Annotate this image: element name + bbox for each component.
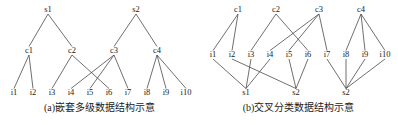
- node-i-4: i4: [68, 87, 75, 97]
- node-i-1: i1: [11, 87, 18, 97]
- node-c-1: c1: [234, 4, 242, 14]
- edge-c4-i8: [147, 55, 157, 89]
- edge-c2-i3: [52, 55, 72, 89]
- edge-i10-s3: [346, 59, 385, 89]
- edge-c1-i1: [14, 55, 29, 89]
- edge-c1-i2: [29, 55, 33, 89]
- edge-c3-i7: [114, 55, 128, 89]
- edge-i5-s2: [289, 59, 296, 89]
- node-s-1: s1: [242, 87, 250, 97]
- edge-s1-c1: [29, 14, 48, 47]
- node-i-6: i6: [106, 87, 113, 97]
- edge-s2-c3: [114, 14, 136, 47]
- node-i-5: i5: [87, 87, 94, 97]
- node-i-10: i10: [181, 87, 192, 97]
- edge-c4-i8: [346, 14, 361, 51]
- edge-c2-i3: [251, 14, 276, 51]
- node-c-2: c2: [68, 45, 76, 55]
- node-i-6: i6: [305, 49, 312, 59]
- node-c-4: c4: [357, 4, 366, 14]
- node-c-1: c1: [25, 45, 33, 55]
- node-i-2: i2: [229, 49, 236, 59]
- node-i-3: i3: [49, 87, 56, 97]
- edge-c1-i1: [213, 14, 238, 51]
- node-i-9: i9: [163, 87, 170, 97]
- node-i-5: i5: [286, 49, 293, 59]
- node-i-4: i4: [267, 49, 274, 59]
- edge-i9-s3: [346, 59, 365, 89]
- node-c-3: c3: [110, 45, 118, 55]
- edge-c1-i2: [232, 14, 238, 51]
- node-i-1: i1: [210, 49, 217, 59]
- node-i-7: i7: [324, 49, 331, 59]
- panel-a-nested-hierarchy: s1s2c1c2c3c4i1i2i3i4i5i6i7i8i9i10 (a)嵌套多…: [0, 0, 199, 125]
- node-i-2: i2: [30, 87, 37, 97]
- node-c-2: c2: [272, 4, 280, 14]
- edge-c3-i4: [270, 14, 319, 51]
- edge-s2-c4: [136, 14, 157, 47]
- node-i-7: i7: [125, 87, 132, 97]
- node-i-3: i3: [248, 49, 255, 59]
- edge-s1-c2: [48, 14, 72, 47]
- edge-i6-s2: [296, 59, 308, 89]
- node-s-2: s2: [292, 87, 300, 97]
- panel-b-cross-classification: c1c2c3c4i1i2i3i4i5i6i7i8i9i10s1s2s2 (b)交…: [199, 0, 398, 125]
- node-c-4: c4: [153, 45, 162, 55]
- edge-i4-s1: [246, 59, 270, 89]
- figure-container: s1s2c1c2c3c4i1i2i3i4i5i6i7i8i9i10 (a)嵌套多…: [0, 0, 398, 125]
- panel-a-caption: (a)嵌套多级数据结构示意: [0, 101, 199, 114]
- node-i-8: i8: [343, 49, 350, 59]
- edge-c3-i5: [289, 14, 319, 51]
- node-i-9: i9: [362, 49, 369, 59]
- node-s-1: s1: [44, 4, 52, 14]
- edge-i3-s1: [246, 59, 251, 89]
- node-s-2: s2: [132, 4, 140, 14]
- edge-c3-i7: [319, 14, 327, 51]
- panel-b-caption: (b)交叉分类数据结构示意: [199, 101, 398, 114]
- node-i-10: i10: [380, 49, 391, 59]
- node-s-3: s2: [342, 87, 350, 97]
- edge-i7-s3: [327, 59, 346, 89]
- edge-c3-i5: [90, 55, 114, 89]
- node-i-8: i8: [144, 87, 151, 97]
- edge-c2-i6: [276, 14, 308, 51]
- node-c-3: c3: [315, 4, 323, 14]
